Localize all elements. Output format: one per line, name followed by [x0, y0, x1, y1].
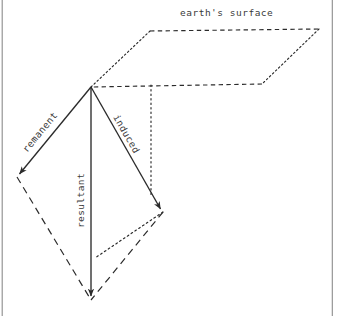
magnetization-vector-diagram: earth's surface remanent induced resulta… [0, 0, 339, 316]
surface-left-edge [91, 31, 150, 87]
induced-projection-line [95, 212, 163, 258]
construction-lines [17, 177, 163, 300]
surface-back-edge [150, 29, 319, 31]
surface-front-edge [91, 84, 262, 87]
surface-right-edge [262, 29, 319, 84]
earth-surface-plane [91, 29, 319, 87]
induced-parallel-line [91, 212, 163, 300]
remanent-vector-arrow [20, 87, 92, 174]
vector-arrows [20, 87, 161, 296]
resultant-label: resultant [75, 173, 86, 228]
earth-surface-label: earth's surface [180, 7, 273, 18]
induced-vector-arrow [91, 87, 161, 209]
figure-container: earth's surface remanent induced resulta… [0, 0, 339, 316]
